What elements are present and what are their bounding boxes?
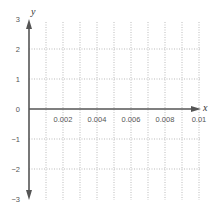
y-tick-label: −2 bbox=[11, 165, 20, 174]
y-tick-label: −1 bbox=[11, 135, 20, 144]
y-axis-arrow-down bbox=[26, 190, 32, 200]
x-tick-label: 0.008 bbox=[156, 115, 175, 124]
x-tick-label: 0.01 bbox=[192, 115, 207, 124]
y-tick-label: 1 bbox=[16, 75, 20, 84]
chart-canvas: 0.0020.0040.0060.0080.013210−1−2−3 x y bbox=[0, 0, 216, 209]
x-axis-arrow bbox=[191, 106, 201, 112]
y-axis-arrow-up bbox=[26, 19, 32, 29]
y-tick-label: 0 bbox=[16, 105, 20, 114]
y-tick-label: −3 bbox=[11, 195, 20, 204]
x-axis-label: x bbox=[202, 102, 208, 113]
axes bbox=[26, 19, 201, 200]
x-tick-label: 0.002 bbox=[54, 115, 73, 124]
y-tick-label: 3 bbox=[16, 15, 20, 24]
grid bbox=[29, 22, 200, 200]
x-tick-label: 0.004 bbox=[88, 115, 107, 124]
y-axis-label: y bbox=[30, 6, 36, 17]
y-tick-label: 2 bbox=[16, 45, 20, 54]
x-tick-label: 0.006 bbox=[122, 115, 141, 124]
